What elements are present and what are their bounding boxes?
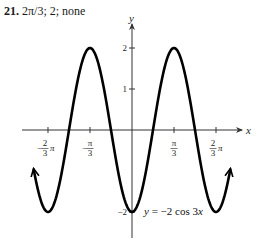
y-tick-label: 1 [123, 84, 128, 94]
x-tick-numerator: π [172, 138, 177, 148]
x-tick-label: −23π [37, 138, 55, 158]
function-label-part: x [197, 205, 203, 217]
x-tick-denominator: 3 [43, 148, 48, 158]
y-axis-label: y [128, 12, 134, 24]
x-tick-denominator: 3 [211, 148, 216, 158]
x-tick-label: π3 [171, 138, 178, 158]
x-tick-sign: − [37, 143, 42, 153]
x-tick-denominator: 3 [172, 148, 177, 158]
graph: −23π−π3π323π xy21−2y = −2 cos 3x [0, 0, 265, 243]
x-tick-suffix: π [218, 143, 223, 153]
x-axis-label: x [245, 124, 251, 136]
x-tick-denominator: 3 [88, 148, 93, 158]
x-tick-label: −π3 [82, 138, 94, 158]
x-tick-numerator: 2 [211, 138, 216, 148]
x-tick-label: 23π [210, 138, 224, 158]
x-tick-sign: − [82, 143, 87, 153]
x-tick-suffix: π [50, 143, 55, 153]
x-tick-numerator: π [88, 138, 93, 148]
y-tick-label: −2 [117, 207, 127, 217]
function-label-part: = −2 cos 3 [149, 205, 199, 217]
x-tick-numerator: 2 [43, 138, 48, 148]
y-tick-label: 2 [123, 43, 128, 53]
function-label: y = −2 cos 3x [143, 205, 203, 217]
